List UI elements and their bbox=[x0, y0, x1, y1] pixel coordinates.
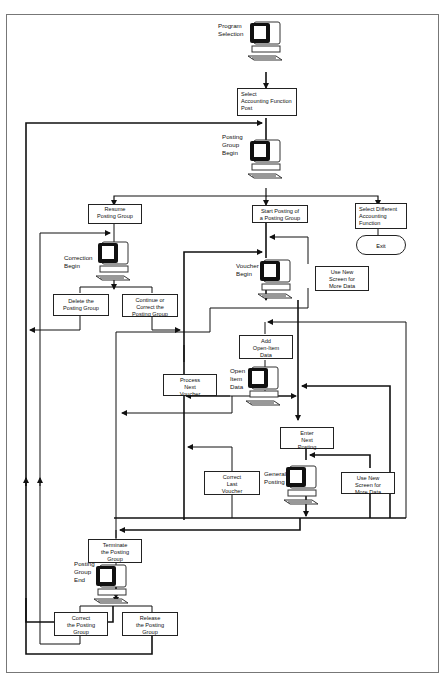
continue-correct-posting-group: Continue orCorrect thePosting Group bbox=[122, 294, 178, 317]
screen-label-posting-group-end: PostingGroupEnd bbox=[74, 560, 95, 584]
computer-terminal-icon bbox=[246, 20, 284, 64]
computer-terminal-icon bbox=[246, 138, 284, 182]
computer-terminal-icon bbox=[92, 563, 130, 607]
select-different-function: Select DifferentAccountingFunction bbox=[355, 203, 407, 229]
resume-posting-group: ResumePosting Group bbox=[88, 204, 142, 224]
screen-label-posting-group-begin: PostingGroupBegin bbox=[222, 133, 243, 157]
screen-label-program-selection: ProgramSelection bbox=[218, 22, 243, 38]
release-posting-group: Releasethe PostingGroup bbox=[122, 612, 178, 636]
add-open-item-data: AddOpen-ItemData bbox=[239, 335, 293, 359]
correct-posting-group: Correctthe PostingGroup bbox=[54, 612, 108, 636]
computer-terminal-icon bbox=[244, 365, 282, 409]
computer-terminal-icon bbox=[282, 464, 320, 508]
screen-label-open-item-data: OpenItemData bbox=[230, 367, 245, 391]
use-new-screen-posting: Use NewScreen forMore Data bbox=[341, 472, 395, 494]
enter-next-posting: EnterNextPosting bbox=[280, 427, 334, 449]
start-posting-group: Start Posting ofa Posting Group bbox=[252, 205, 308, 223]
screen-label-voucher-begin: VoucherBegin bbox=[236, 262, 259, 278]
process-next-voucher: ProcessNextVoucher bbox=[163, 374, 217, 396]
use-new-screen-voucher: Use NewScreen forMore Data bbox=[315, 266, 369, 291]
terminate-posting-group: Terminatethe PostingGroup bbox=[88, 539, 142, 563]
flow-connectors bbox=[0, 0, 446, 682]
screen-label-correction-begin: CorrectionBegin bbox=[64, 254, 93, 270]
computer-terminal-icon bbox=[94, 240, 132, 284]
screen-label-general-posting: GeneralPosting bbox=[264, 470, 286, 486]
delete-posting-group: Delete thePosting Group bbox=[53, 294, 109, 316]
computer-terminal-icon bbox=[256, 258, 294, 302]
exit-terminal: Exit bbox=[356, 235, 406, 255]
correct-last-voucher: CorrectLastVoucher bbox=[204, 471, 260, 495]
select-accounting-function-post: SelectAccounting FunctionPost bbox=[237, 88, 297, 116]
